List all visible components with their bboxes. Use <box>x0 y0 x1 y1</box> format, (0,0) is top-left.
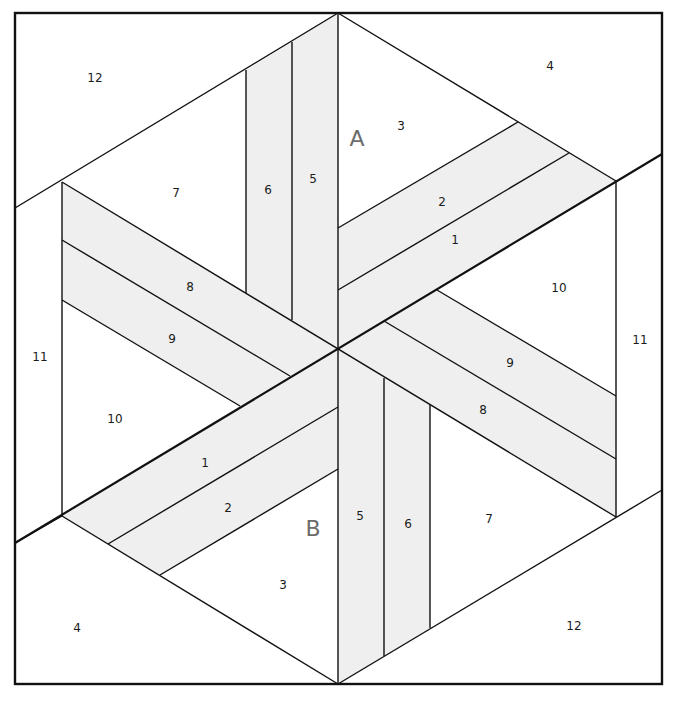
piece-label: 2 <box>438 195 446 209</box>
piece-label: 5 <box>356 509 364 523</box>
piece-label: 1 <box>451 233 459 247</box>
piece-label: 1 <box>201 456 209 470</box>
piece-label: 7 <box>172 186 180 200</box>
piece-label: 10 <box>551 281 566 295</box>
piece-label: 3 <box>279 578 287 592</box>
piece-label: 10 <box>107 412 122 426</box>
piece-label: 12 <box>566 619 581 633</box>
piece-label: 11 <box>32 350 47 364</box>
section-label-a: A <box>349 126 364 151</box>
piece-label: 2 <box>224 501 232 515</box>
section-label-b: B <box>305 516 320 541</box>
piece-label: 8 <box>186 280 194 294</box>
piece-label: 6 <box>264 183 272 197</box>
quilt-pattern-diagram: A B 12 4 3 7 6 5 2 1 10 11 8 9 9 8 11 10… <box>0 0 678 701</box>
piece-label: 7 <box>485 512 493 526</box>
strip-a-6 <box>246 42 292 320</box>
piece-label: 4 <box>546 59 554 73</box>
piece-label: 6 <box>404 517 412 531</box>
piece-label: 11 <box>632 333 647 347</box>
piece-label: 8 <box>479 403 487 417</box>
piece-label: 12 <box>87 71 102 85</box>
piece-label: 5 <box>309 172 317 186</box>
piece-label: 4 <box>73 621 81 635</box>
piece-label: 3 <box>397 119 405 133</box>
piece-label: 9 <box>168 332 176 346</box>
piece-label: 9 <box>506 356 514 370</box>
